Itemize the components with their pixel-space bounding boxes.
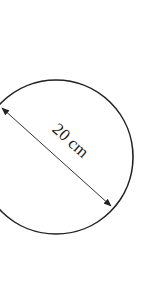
circle-diagram: 20 cm — [0, 0, 152, 281]
circle-shape — [0, 80, 133, 234]
diameter-arrow — [2, 108, 111, 206]
